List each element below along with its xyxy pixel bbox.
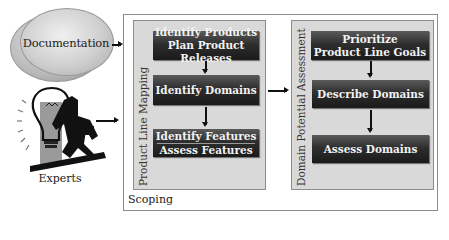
describe-domains-box: Describe Domains <box>312 80 429 108</box>
prioritize-goals-box: Prioritize Product Line Goals <box>311 31 429 60</box>
identify-domains-text: Identify Domains <box>153 84 259 97</box>
assess-domains-text: Assess Domains <box>312 143 429 156</box>
scoping-label: Scoping <box>128 193 173 206</box>
assess-domains-box: Assess Domains <box>312 135 429 163</box>
identify-features-text: Identify Features <box>153 130 259 143</box>
product-line-goals-text: Product Line Goals <box>311 46 429 59</box>
expert-lightbulb-icon <box>12 86 112 174</box>
identify-products-box: Identify Products Plan Product Releases <box>153 31 259 60</box>
product-line-mapping-label: Product Line Mapping <box>137 67 149 186</box>
dpa-arrow-2 <box>370 110 372 131</box>
experts-label: Experts <box>30 172 90 185</box>
describe-domains-text: Describe Domains <box>312 88 429 101</box>
assess-features-text: Assess Features <box>153 144 259 157</box>
plm-arrow-2 <box>205 107 207 125</box>
prioritize-text: Prioritize <box>311 33 429 46</box>
identify-products-text: Identify Products <box>153 26 259 39</box>
dpa-arrow-1 <box>370 61 372 76</box>
documentation-to-scoping-arrow <box>112 44 121 46</box>
plm-to-dpa-arrow <box>268 90 287 92</box>
identify-domains-box: Identify Domains <box>153 75 259 105</box>
documentation-label: Documentation <box>18 36 114 50</box>
domain-potential-assessment-label: Domain Potential Assessment <box>295 28 307 186</box>
plm-arrow-1 <box>205 61 207 72</box>
experts-to-scoping-arrow <box>96 120 117 122</box>
identify-features-box: Identify Features Assess Features <box>153 129 259 157</box>
